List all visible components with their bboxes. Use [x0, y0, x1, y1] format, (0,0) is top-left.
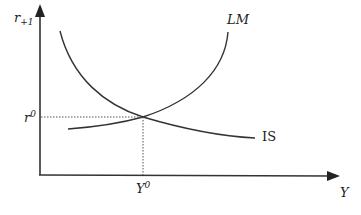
x-axis: [39, 175, 330, 176]
lm-curve: [68, 32, 228, 129]
is-lm-diagram: r+1 LM IS r0 Y0 Y: [0, 0, 361, 215]
y-axis-arrow-icon: [35, 4, 45, 17]
equilibrium-output-label: Y0: [136, 180, 151, 196]
x-axis-arrow-icon: [327, 171, 340, 181]
y-axis-label: r+1: [14, 10, 34, 27]
is-label: IS: [262, 129, 276, 144]
equilibrium-rate-label: r0: [24, 109, 36, 125]
lm-label: LM: [226, 12, 250, 27]
x-axis-label: Y: [340, 185, 350, 200]
